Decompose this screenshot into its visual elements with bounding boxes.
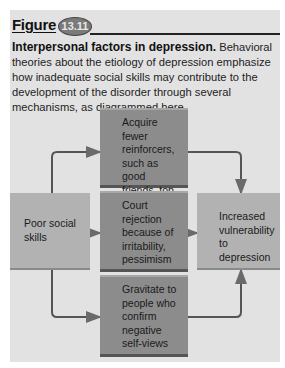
mechanism-box-reinforcers: Acquire fewer reinforcers, such as good … [100, 108, 188, 188]
source-label: Poor social skills [24, 217, 84, 244]
mechanism-label: Court rejection because of irritability,… [122, 199, 173, 265]
source-box: Poor social skills [10, 193, 90, 270]
outcome-label: Increased vulnerability to depression [219, 210, 279, 264]
outcome-box: Increased vulnerability to depression [197, 193, 280, 270]
mechanism-label: Gravitate to people who confirm negative… [122, 283, 176, 349]
mechanism-box-rejection: Court rejection because of irritability,… [100, 191, 188, 272]
mechanism-box-confirm: Gravitate to people who confirm negative… [100, 275, 188, 357]
